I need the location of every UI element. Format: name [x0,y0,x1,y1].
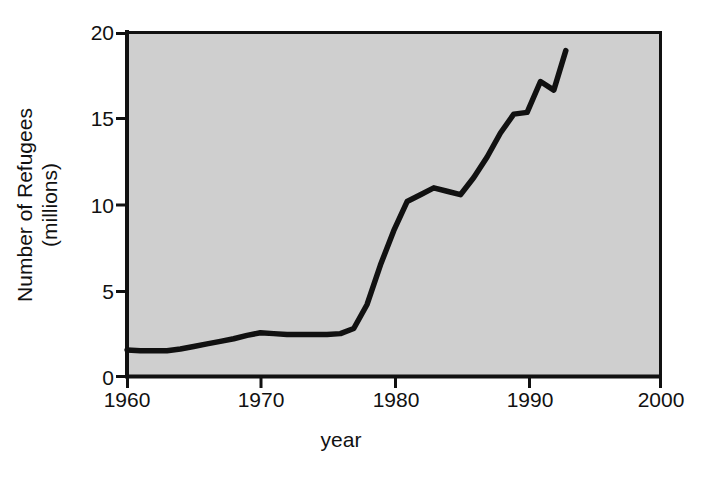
x-axis-tick-labels: 1960 1970 1980 1990 2000 [0,388,706,418]
plot-background [126,32,662,377]
x-tick-label-1960: 1960 [82,388,172,412]
x-tick-label-1980: 1980 [351,388,441,412]
x-tick-label-2000: 2000 [616,388,706,412]
x-axis-title: year [0,428,706,452]
x-tick-label-1970: 1970 [216,388,306,412]
x-axis-title-text: year [321,428,362,451]
x-tick-label-1990: 1990 [485,388,575,412]
chart-figure: Number of Refugees (millions) 20 15 10 5… [0,0,706,481]
